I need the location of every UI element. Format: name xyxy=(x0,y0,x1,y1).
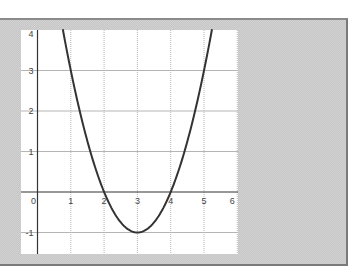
x-tick-label: 2 xyxy=(102,196,107,206)
chart-plot: 0123456 4321-1 xyxy=(0,0,359,267)
x-tick-label: 1 xyxy=(68,196,73,206)
y-tick-label: -1 xyxy=(25,228,33,238)
y-tick-label: 3 xyxy=(28,66,33,76)
y-tick-label: 2 xyxy=(28,106,33,116)
x-tick-label: 6 xyxy=(230,196,235,206)
x-tick-label: 3 xyxy=(135,196,140,206)
y-tick-label: 4 xyxy=(28,29,33,39)
x-tick-label: 5 xyxy=(201,196,206,206)
x-tick-label: 0 xyxy=(31,196,36,206)
x-tick-label: 4 xyxy=(168,196,173,206)
y-tick-label: 1 xyxy=(28,147,33,157)
